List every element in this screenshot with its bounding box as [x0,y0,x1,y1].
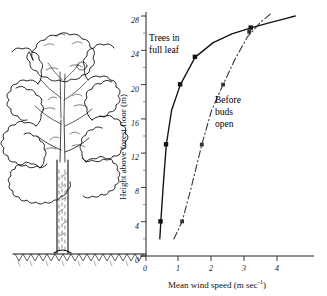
x-tick-label: 4 [275,264,279,273]
x-axis-title: Mean wind speed (m sec-1) [168,278,266,290]
plot-axes: 0 4 8 12 16 20 24 28 0 1 2 3 4 Height ab… [118,12,314,290]
y-axis-title: Height above forest floor (m) [118,94,128,200]
annotation-before-buds-open: Before buds open [215,95,241,129]
y-tick-label: 28 [131,16,139,25]
x-tick-label: 1 [176,264,180,273]
before-buds-open-line3: open [215,119,234,129]
figure-svg: 0 4 8 12 16 20 24 28 0 1 2 3 4 Height ab… [0,0,327,296]
ground-hatching [15,254,143,261]
y-tick-label: 8 [135,187,139,196]
y-tick-label: 12 [131,153,139,162]
before-buds-open-line2: buds [215,107,233,117]
y-tick-label: 16 [131,119,139,128]
y-tick-label: 24 [131,50,139,59]
y-tick-label: 20 [131,85,139,94]
trees-in-full-leaf-line1: Trees in [149,33,180,43]
x-tick-labels: 0 1 2 3 4 [143,264,279,273]
series-markers-trees-in-full-leaf [158,25,253,223]
x-axis-title-tail: ) [263,280,266,290]
figure-root: 0 4 8 12 16 20 24 28 0 1 2 3 4 Height ab… [0,0,327,296]
x-ticks [146,256,277,261]
y-tick-label: 4 [135,222,139,231]
before-buds-open-line1: Before [215,95,241,105]
trees-in-full-leaf-line2: full leaf [149,45,180,55]
x-tick-label: 3 [241,264,246,273]
y-tick-labels: 0 4 8 12 16 20 24 28 [131,16,139,265]
annotation-trees-in-full-leaf: Trees in full leaf [149,33,180,55]
x-axis-title-main: Mean wind speed (m sec [168,280,257,290]
x-tick-label: 2 [209,264,213,273]
x-tick-label: 0 [143,264,147,273]
y-tick-label: 0 [135,256,139,265]
